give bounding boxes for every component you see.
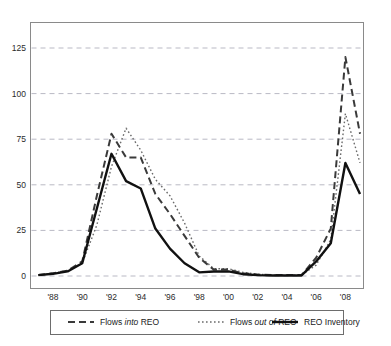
chart-figure: 0255075100125 '88'90'92'94'96'98'00'02'0… bbox=[0, 0, 391, 346]
x-tick-label-96: '96 bbox=[164, 292, 175, 302]
legend-label-0[interactable]: Flows into REO bbox=[100, 317, 159, 327]
x-tick-label-04: '04 bbox=[281, 292, 292, 302]
x-tick-label-02: '02 bbox=[252, 292, 263, 302]
x-tick-label-98: '98 bbox=[194, 292, 205, 302]
x-tick-label-06: '06 bbox=[311, 292, 322, 302]
x-tick-label-90: '90 bbox=[77, 292, 88, 302]
x-tick-label-92: '92 bbox=[106, 292, 117, 302]
x-tick-label-88: '88 bbox=[47, 292, 58, 302]
x-tick-label-94: '94 bbox=[135, 292, 146, 302]
y-tick-label-100: 100 bbox=[12, 89, 26, 99]
y-tick-label-25: 25 bbox=[17, 225, 27, 235]
line-chart: 0255075100125 '88'90'92'94'96'98'00'02'0… bbox=[0, 0, 391, 346]
y-tick-label-125: 125 bbox=[12, 43, 26, 53]
x-tick-label-08: '08 bbox=[340, 292, 351, 302]
y-tick-label-50: 50 bbox=[17, 180, 27, 190]
x-tick-label-00: '00 bbox=[223, 292, 234, 302]
y-tick-label-75: 75 bbox=[17, 134, 27, 144]
legend-label-2[interactable]: REO Inventory bbox=[304, 317, 360, 327]
y-tick-label-0: 0 bbox=[21, 271, 26, 281]
